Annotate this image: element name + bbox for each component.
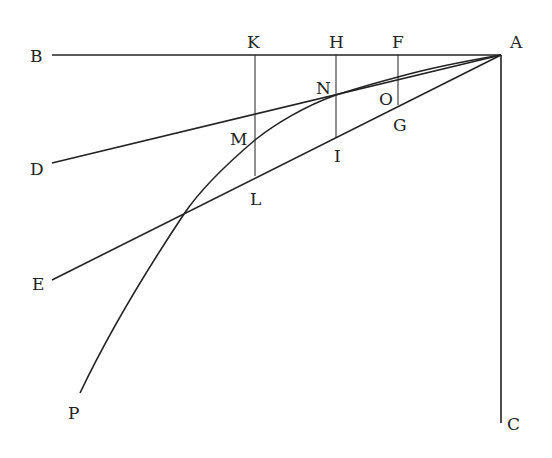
label-L: L <box>250 189 261 209</box>
label-F: F <box>392 32 404 52</box>
label-A: A <box>509 32 523 52</box>
label-H: H <box>329 32 344 52</box>
label-K: K <box>247 32 260 52</box>
geometric-figure: B K H F A N O G M I D L E P C <box>0 0 552 458</box>
label-E: E <box>32 274 44 294</box>
line-AE <box>52 55 501 280</box>
label-G: G <box>393 115 407 135</box>
label-N: N <box>316 78 331 98</box>
label-M: M <box>230 129 247 149</box>
label-C: C <box>507 414 520 434</box>
label-I: I <box>334 146 341 166</box>
label-P: P <box>68 403 79 423</box>
label-O: O <box>379 89 393 109</box>
label-B: B <box>30 46 43 66</box>
label-D: D <box>30 159 44 179</box>
line-AD <box>52 55 501 163</box>
